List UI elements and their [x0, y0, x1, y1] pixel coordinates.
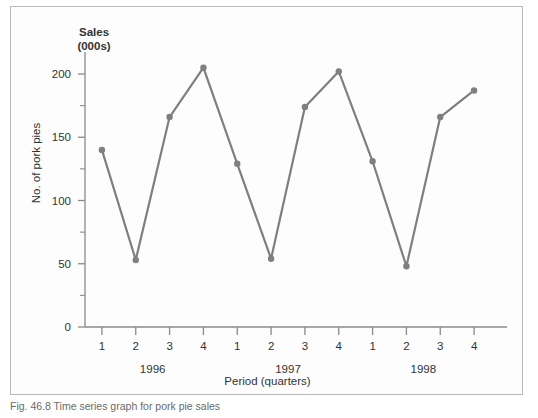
x-axis-tick-label: 2 [259, 340, 283, 352]
data-point-marker [437, 114, 443, 120]
x-axis-tick-label: 3 [428, 340, 452, 352]
y-axis-tick-label: 200 [29, 69, 71, 79]
x-axis-tick-label: 2 [124, 340, 148, 352]
data-point-marker [471, 87, 477, 93]
x-axis-title: Period (quarters) [11, 375, 524, 387]
data-point-marker [133, 257, 139, 263]
line-chart-svg [11, 7, 524, 396]
data-point-marker [200, 64, 206, 70]
data-point-marker [234, 161, 240, 167]
y-axis-title: No. of pork pies [30, 78, 42, 248]
y-axis-tick-label: 0 [29, 322, 71, 332]
y-axis-tick-label: 150 [29, 132, 71, 142]
data-point-marker [166, 114, 172, 120]
x-axis-tick-label: 1 [90, 340, 114, 352]
data-point-marker [268, 255, 274, 261]
y-axis-tick-label: 50 [29, 259, 71, 269]
x-axis-tick-label: 1 [361, 340, 385, 352]
x-axis-tick-label: 3 [158, 340, 182, 352]
x-axis-tick-label: 1 [225, 340, 249, 352]
data-point-marker [369, 158, 375, 164]
x-axis-tick-label: 2 [394, 340, 418, 352]
figure-caption: Fig. 46.8 Time series graph for pork pie… [10, 400, 220, 412]
x-axis-tick-label: 4 [191, 340, 215, 352]
chart-axes [78, 52, 507, 335]
x-axis-tick-label: 4 [462, 340, 486, 352]
data-point-marker [336, 68, 342, 74]
x-axis-year-label: 1996 [123, 363, 183, 375]
data-point-marker [302, 104, 308, 110]
y-axis-unit-label-line2: (000s) [59, 39, 129, 53]
chart-series [99, 64, 478, 269]
y-axis-tick-label: 100 [29, 196, 71, 206]
data-point-marker [99, 147, 105, 153]
data-point-marker [403, 263, 409, 269]
x-axis-year-label: 1998 [393, 363, 453, 375]
x-axis-tick-label: 3 [293, 340, 317, 352]
y-axis-unit-label-line1: Sales [59, 25, 129, 39]
y-axis-unit-label: Sales (000s) [59, 25, 129, 53]
chart-plot-area: Sales (000s) No. of pork pies Period (qu… [11, 7, 524, 396]
figure-frame: Sales (000s) No. of pork pies Period (qu… [10, 6, 523, 395]
x-axis-year-label: 1997 [258, 363, 318, 375]
x-axis-tick-label: 4 [327, 340, 351, 352]
